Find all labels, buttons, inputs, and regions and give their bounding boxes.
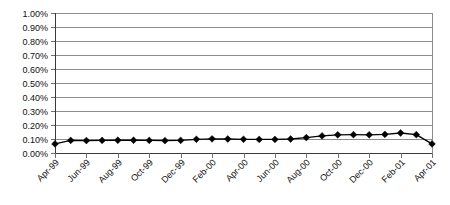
y-axis-tick-label: 0.00%	[22, 149, 48, 159]
y-axis-tick-label: 0.30%	[22, 107, 48, 117]
y-axis-tick-label: 0.40%	[22, 93, 48, 103]
y-axis-tick-label: 0.90%	[22, 23, 48, 33]
y-axis-tick-label: 1.00%	[22, 9, 48, 19]
y-axis-tick-label: 0.70%	[22, 51, 48, 61]
y-axis-tick-label: 0.60%	[22, 65, 48, 75]
y-axis-tick-label: 0.10%	[22, 135, 48, 145]
y-axis-tick-label: 0.20%	[22, 121, 48, 131]
chart-container: 1.00%0.90%0.80%0.70%0.60%0.50%0.40%0.30%…	[0, 0, 450, 205]
line-chart: 1.00%0.90%0.80%0.70%0.60%0.50%0.40%0.30%…	[0, 0, 450, 205]
y-axis-tick-label: 0.80%	[22, 37, 48, 47]
y-axis-tick-label: 0.50%	[22, 79, 48, 89]
